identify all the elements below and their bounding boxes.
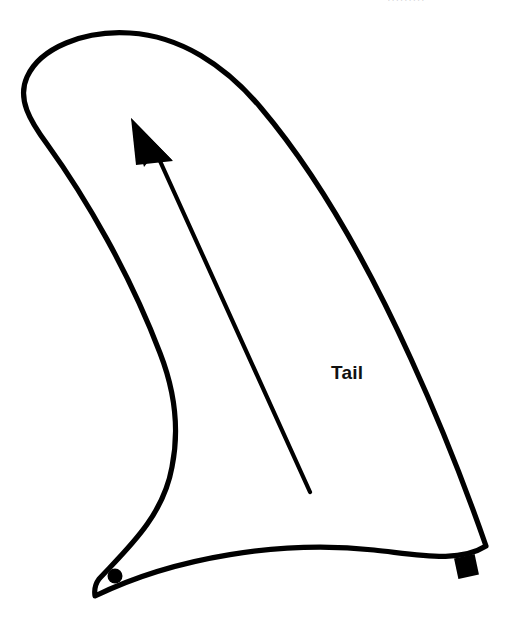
- fin-outline-path: [24, 33, 486, 596]
- tail-label: Tail: [331, 362, 363, 384]
- fin-diagram-svg: [0, 0, 516, 639]
- diagram-canvas: Tail · · · · · · · · ·: [0, 0, 516, 639]
- circle-marker: [108, 569, 123, 584]
- watermark-text: · · · · · · · · ·: [388, 0, 446, 6]
- square-marker: [454, 554, 479, 579]
